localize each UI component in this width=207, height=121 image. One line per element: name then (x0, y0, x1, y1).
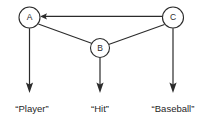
node-group: A B C (19, 7, 184, 58)
node-b-label: B (97, 43, 103, 53)
terminal-label-player: “Player” (15, 103, 48, 114)
terminal-label-baseball: “Baseball” (152, 103, 195, 114)
node-b[interactable]: B (91, 39, 110, 58)
node-a-label: A (27, 12, 33, 22)
node-c-label: C (170, 12, 176, 22)
graph-diagram-figure: A B C “Player” “Hit” “Baseball” (0, 0, 207, 121)
graph-canvas: A B C “Player” “Hit” “Baseball” (0, 0, 207, 121)
node-c[interactable]: C (163, 7, 184, 28)
node-a[interactable]: A (19, 7, 40, 28)
edge-a-to-b (38, 24, 92, 44)
terminal-label-group: “Player” “Hit” “Baseball” (15, 103, 194, 114)
terminal-arrow-group (26, 28, 177, 93)
edge-b-to-c (109, 25, 165, 45)
terminal-label-hit: “Hit” (91, 103, 109, 114)
